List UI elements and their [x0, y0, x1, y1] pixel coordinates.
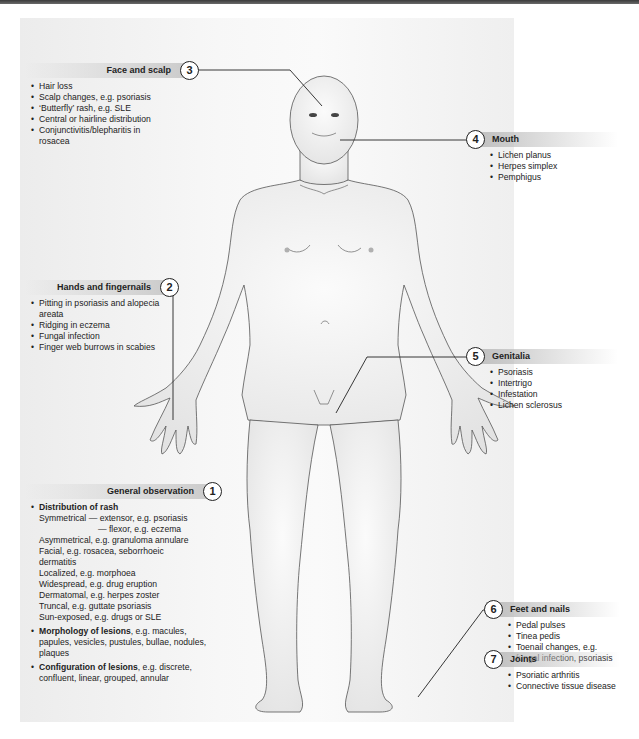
face-list: Hair loss Scalp changes, e.g. psoriasis … [31, 81, 195, 147]
left-leg [247, 420, 318, 712]
list-item: Central or hairline distribution [31, 114, 195, 125]
number-badge: 5 [466, 347, 485, 366]
list-item: Lichen planus [490, 150, 618, 161]
list-item: Intertrigo [490, 378, 618, 389]
number-badge: 3 [180, 61, 199, 80]
number-badge: 2 [160, 278, 179, 297]
list-item: Psoriasis [490, 367, 618, 378]
callout-header: Face and scalp 3 [25, 63, 195, 78]
head [290, 76, 358, 164]
list-item: Connective tissue disease [508, 681, 620, 692]
list-item: Herpes simplex [490, 161, 618, 172]
callout-hands-fingernails: Hands and fingernails 2 Pitting in psori… [25, 280, 175, 353]
list-item: Pedal pulses [508, 620, 620, 631]
list-item: Pitting in psoriasis and alopecia areata [31, 298, 175, 320]
callout-header: 6 Feet and nails [486, 602, 620, 617]
callout-mouth: 4 Mouth Lichen planus Herpes simplex Pem… [468, 132, 618, 183]
list-item-distribution: Distribution of rash [31, 502, 218, 513]
list-item: Scalp changes, e.g. psoriasis [31, 92, 195, 103]
genitalia-list: Psoriasis Intertrigo Infestation Lichen … [490, 367, 618, 411]
list-item-morphology: Morphology of lesions, e.g. macules, pap… [31, 626, 218, 659]
list-item: Tinea pedis [508, 631, 620, 642]
mouth-list: Lichen planus Herpes simplex Pemphigus [490, 150, 618, 183]
list-item: Psoriatic arthritis [508, 670, 620, 681]
list-item: ‘Butterfly’ rash, e.g. SLE [31, 103, 195, 114]
list-item: Pemphigus [490, 172, 618, 183]
callout-joints: 7 Joints Psoriatic arthritis Connective … [486, 652, 620, 692]
number-badge: 6 [484, 600, 503, 619]
right-leg [330, 420, 401, 712]
number-badge: 1 [203, 482, 222, 501]
list-item: Lichen sclerosus [490, 400, 618, 411]
joints-list: Psoriatic arthritis Connective tissue di… [508, 670, 620, 692]
callout-header: 4 Mouth [468, 132, 618, 147]
hands-list: Pitting in psoriasis and alopecia areata… [31, 298, 175, 353]
list-item: Infestation [490, 389, 618, 400]
list-item: Finger web burrows in scabies [31, 342, 175, 353]
number-badge: 7 [484, 650, 503, 669]
callout-header: Hands and fingernails 2 [25, 280, 175, 295]
list-item-configuration: Configuration of lesions, e.g. discrete,… [31, 662, 218, 684]
callout-header: 7 Joints [486, 652, 620, 667]
callout-header: General observation 1 [25, 484, 218, 499]
list-item: Ridging in eczema [31, 320, 175, 331]
torso [134, 180, 514, 454]
callout-header: 5 Genitalia [468, 349, 618, 364]
leader-feet [418, 610, 486, 697]
list-item: Hair loss [31, 81, 195, 92]
number-badge: 4 [466, 130, 485, 149]
callout-general-observation: General observation 1 Distribution of ra… [25, 484, 218, 684]
callout-genitalia: 5 Genitalia Psoriasis Intertrigo Infesta… [468, 349, 618, 411]
callout-face-scalp: Face and scalp 3 Hair loss Scalp changes… [25, 63, 195, 147]
list-item: Conjunctivitis/blepharitis in rosacea [31, 125, 159, 147]
list-item: Fungal infection [31, 331, 175, 342]
general-list: Distribution of rash Symmetrical — exten… [31, 502, 218, 684]
